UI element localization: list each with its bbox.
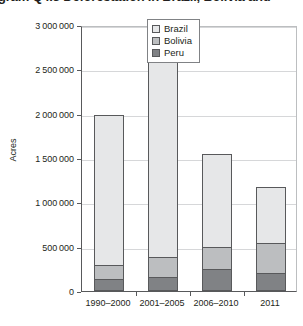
x-axis-tick-label: 2001–2005 <box>139 298 184 308</box>
legend-item-bolivia[interactable]: Bolivia <box>152 35 192 47</box>
y-axis-tick-label: 3 000 000 <box>35 21 74 31</box>
bar-segment-peru[interactable] <box>94 279 124 291</box>
bar-segment-brazil[interactable] <box>202 154 232 247</box>
y-axis-tick-mark <box>77 203 81 204</box>
bar-segment-brazil[interactable] <box>94 115 124 266</box>
bar-chart: Acres 0500 0001 000 0001 500 0002 000 00… <box>0 9 303 326</box>
y-axis-tick-mark <box>77 248 81 249</box>
legend-label: Bolivia <box>164 35 192 47</box>
y-axis-tick-mark <box>77 26 81 27</box>
y-axis-tick-mark <box>77 70 81 71</box>
bar-segment-peru[interactable] <box>202 269 232 291</box>
y-axis-tick-label: 1 000 000 <box>35 198 74 208</box>
y-axis-tick-label: 1 500 000 <box>35 154 74 164</box>
bar-segment-bolivia[interactable] <box>256 243 286 273</box>
bar-segment-bolivia[interactable] <box>202 247 232 269</box>
legend-swatch-peru-icon <box>152 49 160 57</box>
x-axis-tick-mark <box>244 291 245 296</box>
legend-swatch-brazil-icon <box>152 25 160 33</box>
y-axis-tick-mark <box>77 115 81 116</box>
x-axis-tick-label: 1990–2000 <box>85 298 130 308</box>
bar-segment-peru[interactable] <box>148 277 178 291</box>
y-axis-tick-label: 2 000 000 <box>35 110 74 120</box>
bar-2[interactable] <box>148 55 178 291</box>
gridline <box>82 71 296 72</box>
legend-item-brazil[interactable]: Brazil <box>152 23 192 35</box>
y-axis-tick-label: 0 <box>69 287 74 297</box>
y-axis-tick-mark <box>77 292 81 293</box>
y-axis-title: Acres <box>8 120 18 180</box>
legend-item-peru[interactable]: Peru <box>152 47 192 59</box>
x-axis-tick-label: 2006–2010 <box>193 298 238 308</box>
y-axis-tick-mark <box>77 159 81 160</box>
bar-segment-brazil[interactable] <box>256 187 286 243</box>
legend-swatch-bolivia-icon <box>152 37 160 45</box>
bar-segment-bolivia[interactable] <box>148 257 178 277</box>
legend-label: Peru <box>164 47 184 59</box>
bar-1[interactable] <box>94 115 124 291</box>
bar-segment-brazil[interactable] <box>148 55 178 257</box>
y-axis-tick-label: 2 500 000 <box>35 65 74 75</box>
x-axis-tick-mark <box>190 291 191 296</box>
bar-4[interactable] <box>256 187 286 291</box>
figure-caption-strip: gram Q4.3 Deforestation in Brazil, Boliv… <box>0 0 303 9</box>
bar-segment-bolivia[interactable] <box>94 265 124 279</box>
x-axis-tick-mark <box>136 291 137 296</box>
chart-legend: BrazilBoliviaPeru <box>147 19 200 63</box>
x-axis-tick-label: 2011 <box>260 298 279 308</box>
bar-segment-peru[interactable] <box>256 273 286 291</box>
bar-3[interactable] <box>202 154 232 291</box>
y-axis-tick-label: 500 000 <box>42 243 74 253</box>
plot-area <box>81 26 297 292</box>
legend-label: Brazil <box>164 23 188 35</box>
figure-caption: gram Q4.3 Deforestation in Brazil, Boliv… <box>0 0 271 4</box>
